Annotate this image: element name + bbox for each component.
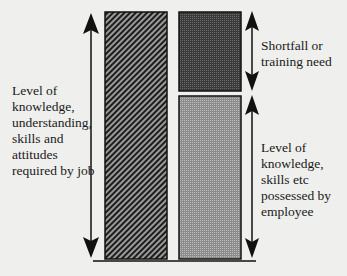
possessed-level-bar (179, 96, 241, 259)
shortfall-bar (179, 12, 241, 91)
training-need-diagram: Level of knowledge, understanding, skill… (0, 0, 347, 276)
possessed-level-arrow (245, 95, 259, 258)
shortfall-label: Shortfall or training need (261, 38, 347, 70)
required-level-bar (105, 12, 167, 259)
shortfall-arrow (245, 11, 259, 91)
possessed-level-label: Level of knowledge, skills etc possessed… (261, 140, 347, 220)
required-level-label: Level of knowledge, understanding, skill… (12, 83, 100, 179)
